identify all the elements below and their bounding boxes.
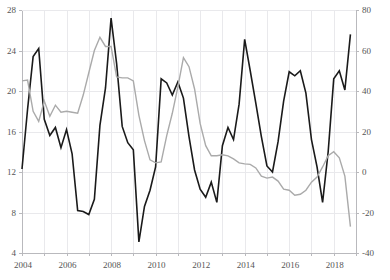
left-axis-tick-label: 24 [7, 46, 17, 56]
left-axis-tick-label: 8 [12, 208, 17, 218]
right-axis-tick-label: 80 [362, 5, 372, 15]
left-axis-tick-label: 20 [7, 86, 17, 96]
left-axis-tick-label: 16 [7, 127, 17, 137]
left-axis-tick-label: 12 [7, 167, 16, 177]
x-axis-tick-label: 2016 [281, 260, 300, 270]
left-axis-tick-label: 28 [7, 5, 17, 15]
left-axis-tick-labels: 481216202428 [7, 5, 17, 258]
right-axis-tick-label: 0 [362, 167, 367, 177]
x-axis-tick-label: 2006 [59, 260, 78, 270]
right-axis-tick-label: 40 [362, 86, 372, 96]
x-axis-tick-label: 2010 [148, 260, 167, 270]
right-axis-tick-label: 20 [362, 127, 372, 137]
right-axis-tick-label: -40 [362, 248, 374, 258]
dual-axis-line-chart: 481216202428 -40-20020406080 20042006200… [0, 0, 390, 280]
x-axis-tick-label: 2018 [326, 260, 345, 270]
chart-container: 481216202428 -40-20020406080 20042006200… [0, 0, 390, 280]
left-axis-tick-label: 4 [12, 248, 17, 258]
x-axis-tick-label: 2008 [103, 260, 122, 270]
x-axis-tick-label: 2004 [14, 260, 33, 270]
right-axis-tick-labels: -40-20020406080 [362, 5, 374, 258]
x-axis-tick-label: 2012 [192, 260, 210, 270]
right-axis-tick-label: -20 [362, 208, 374, 218]
x-axis-tick-labels: 20042006200820102012201420162018 [14, 260, 344, 270]
x-axis-tick-label: 2014 [237, 260, 256, 270]
right-axis-tick-label: 60 [362, 46, 372, 56]
